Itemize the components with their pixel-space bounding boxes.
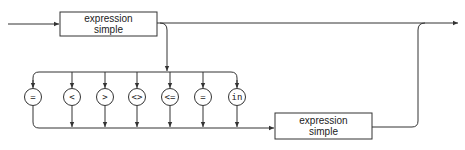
- operator-greater-than: >: [97, 89, 114, 106]
- svg-text:=: =: [200, 92, 206, 102]
- svg-text:<>: <>: [132, 92, 143, 102]
- return-path: [372, 23, 425, 127]
- top-box-line1: expression: [84, 13, 132, 24]
- svg-text:<=: <=: [165, 92, 176, 102]
- operator-less-than: <: [64, 89, 81, 106]
- operator-equals: =: [25, 89, 42, 106]
- operator-equals-2: =: [195, 89, 212, 106]
- operator-less-equal: <=: [162, 89, 179, 106]
- svg-text:<: <: [69, 92, 75, 102]
- bottom-expression-simple-box: expression simple: [275, 113, 372, 139]
- top-box-line2: simple: [94, 24, 123, 35]
- bottom-box-line1: expression: [299, 115, 347, 126]
- operator-in: in: [229, 89, 246, 106]
- branch-to-operators: [160, 23, 167, 71]
- operator-not-equal: <>: [129, 89, 146, 106]
- bottom-box-line2: simple: [309, 126, 338, 137]
- operator-bottom-rail: [33, 106, 274, 128]
- svg-text:in: in: [232, 92, 243, 102]
- syntax-diagram: expression simple = < > <> <= = in: [0, 0, 465, 150]
- top-expression-simple-box: expression simple: [60, 12, 157, 36]
- operator-top-rail: [33, 72, 237, 87]
- svg-text:>: >: [102, 92, 108, 102]
- svg-text:=: =: [30, 92, 36, 102]
